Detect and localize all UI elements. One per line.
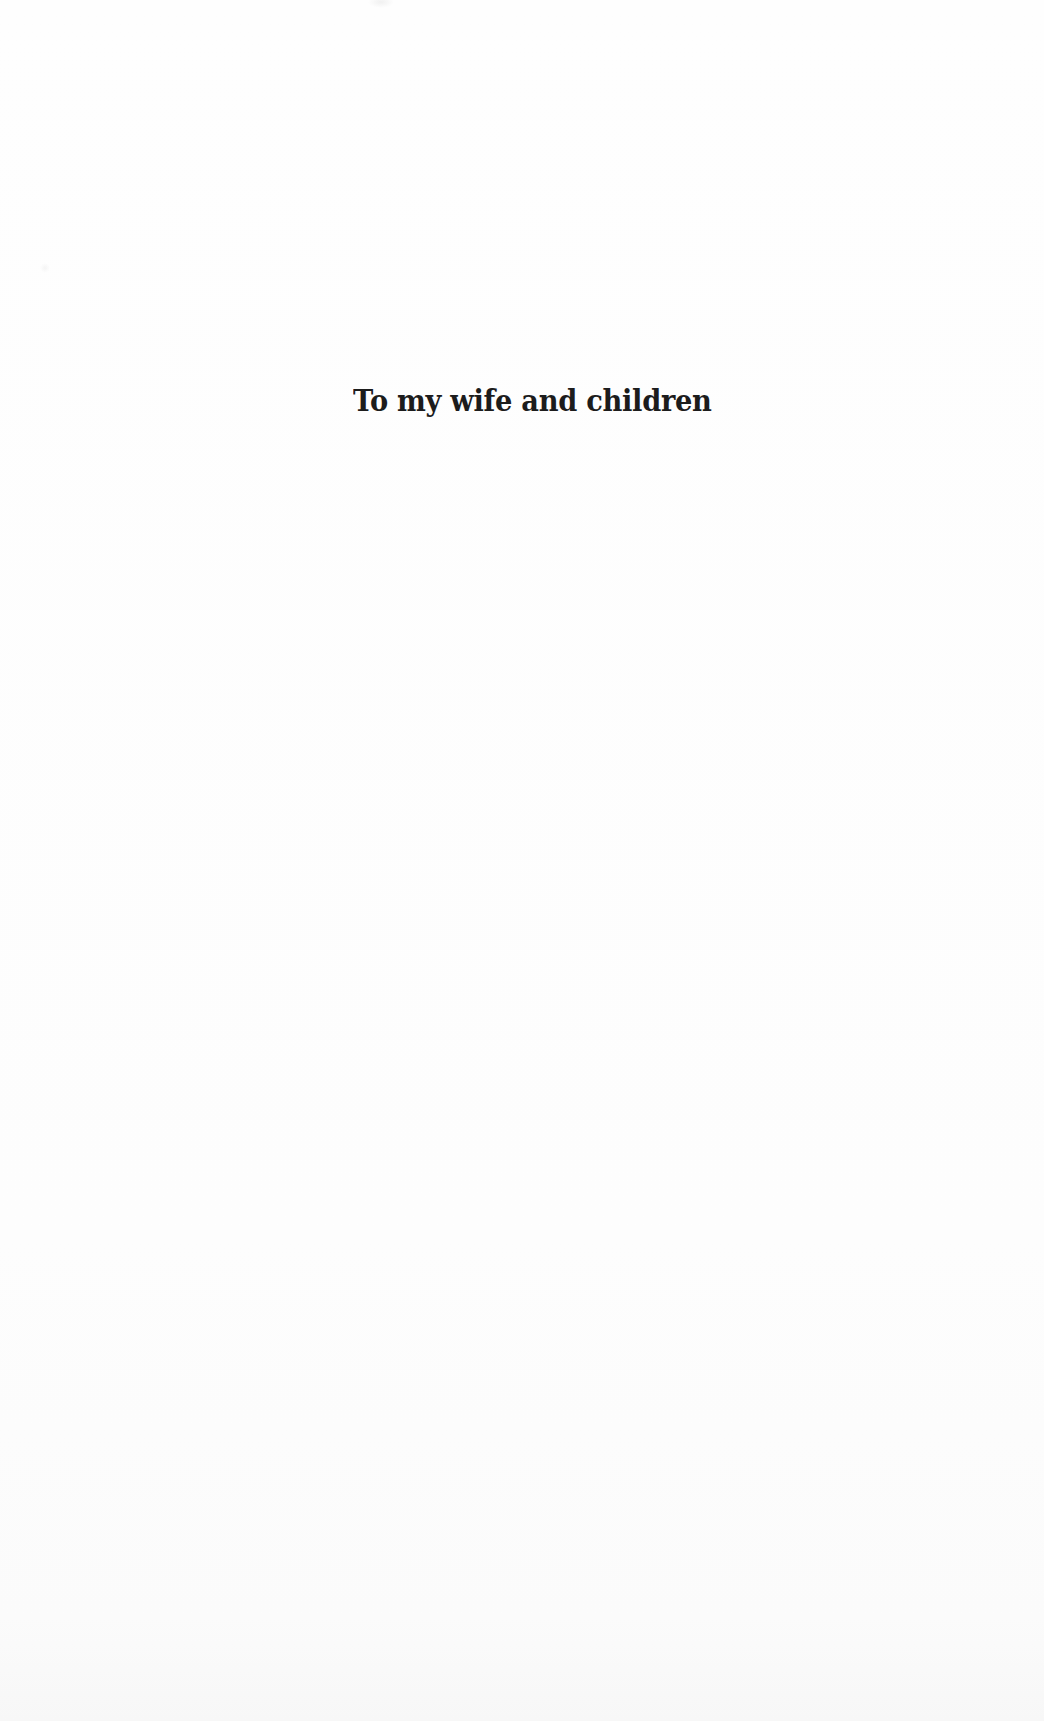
scan-smudge-left bbox=[40, 263, 50, 273]
book-dedication-page: To my wife and children bbox=[0, 0, 1044, 1721]
scan-smudge-top bbox=[368, 0, 394, 8]
dedication-text: To my wife and children bbox=[353, 386, 712, 418]
